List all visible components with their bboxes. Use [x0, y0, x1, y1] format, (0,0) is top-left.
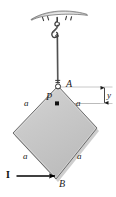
point-p-marker: [55, 101, 59, 105]
suspension-cable: [56, 35, 60, 83]
label-dimension-y: y: [107, 91, 111, 100]
label-side-upper-left: a: [24, 99, 29, 108]
label-point-b: B: [59, 179, 65, 189]
figure-container: A P B a a a a y I: [0, 0, 116, 197]
ceiling-support: [31, 11, 88, 21]
label-force-i: I: [6, 170, 10, 180]
label-side-lower-left: a: [23, 152, 28, 161]
point-a-marker: [56, 84, 61, 89]
label-point-a: A: [66, 79, 72, 89]
mechanics-diagram: [0, 0, 116, 197]
label-side-lower-right: a: [77, 152, 82, 161]
label-point-p: P: [46, 92, 52, 102]
label-side-upper-right: a: [76, 99, 81, 108]
